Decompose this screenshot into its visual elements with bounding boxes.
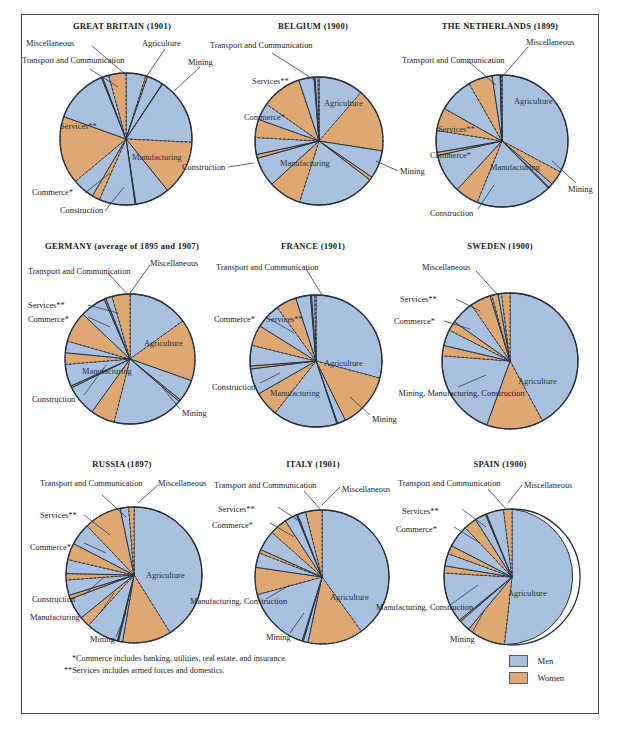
legend-label-men: Men — [537, 656, 553, 666]
label-miscellaneous: Miscellaneous — [422, 263, 470, 273]
footnote-services: **Services includes armed forces and dom… — [64, 665, 287, 677]
panel-title: SPAIN (1900) — [400, 459, 600, 469]
label-agriculture: Agriculture — [508, 589, 547, 599]
label-commerce: Commerce* — [394, 317, 435, 327]
label-transport-and-communication: Transport and Communication — [402, 56, 505, 66]
panel-germany: GERMANY (average of 1895 and 1907) — [22, 237, 222, 449]
label-agriculture: Agriculture — [514, 97, 553, 107]
panel-belgium: BELGIUM (1900) — [218, 15, 408, 227]
label-commerce: Commerce* — [396, 525, 437, 535]
label-manufacturing: Manufacturing — [280, 159, 330, 169]
label-agriculture: Agriculture — [324, 359, 363, 369]
label-manufacturing: Manufacturing — [490, 163, 540, 173]
label-agriculture: Agriculture — [324, 99, 363, 109]
label-services: Services** — [400, 295, 437, 305]
panel-title: ITALY (1901) — [218, 459, 408, 469]
legend-swatch-men — [509, 655, 528, 667]
label-transport-and-communication: Transport and Communication — [210, 41, 313, 51]
label-manufacturing: Manufacturing — [132, 153, 182, 163]
label-construction: Construction — [212, 383, 255, 393]
legend-label-women: Women — [537, 673, 564, 683]
legend-swatch-women — [509, 672, 528, 684]
panel-italy: ITALY (1901) — [218, 453, 408, 665]
label-services: Services** — [266, 315, 303, 325]
label-construction: Construction — [32, 595, 75, 605]
footnote-commerce: *Commerce includes banking, utilities, r… — [72, 653, 287, 665]
label-commerce: Commerce* — [430, 151, 471, 161]
label-miscellaneous: Miscellaneous — [26, 39, 74, 49]
label-manufacturing: Manufacturing — [82, 367, 132, 377]
panel-title: GERMANY (average of 1895 and 1907) — [22, 241, 222, 251]
panel-title: FRANCE (1901) — [218, 241, 408, 251]
panel-title: RUSSIA (1897) — [22, 459, 222, 469]
panel-title: BELGIUM (1900) — [218, 21, 408, 31]
label-mining: Mining — [90, 635, 115, 645]
label-mining: Mining — [182, 409, 207, 419]
panel-russia: RUSSIA (1897) — [22, 453, 222, 665]
panel-spain: SPAIN (1900) — [400, 453, 600, 665]
label-construction: Construction — [32, 395, 75, 405]
panel-france: FRANCE (1901) — [218, 237, 408, 449]
label-commerce: Commerce* — [212, 521, 253, 531]
label-transport-and-communication: Transport and Communication — [28, 267, 131, 277]
label-services: Services** — [252, 77, 289, 87]
label-services: Services** — [40, 511, 77, 521]
label-transport-and-communication: Transport and Communication — [40, 479, 143, 489]
label-mining: Mining — [266, 633, 291, 643]
label-agriculture: Agriculture — [518, 377, 557, 387]
label-services: Services** — [60, 122, 97, 132]
label-miscellaneous: Miscellaneous — [158, 479, 206, 489]
footnotes: *Commerce includes banking, utilities, r… — [72, 653, 287, 676]
label-transport-and-communication: Transport and Communication — [22, 56, 125, 66]
label-services: Services** — [438, 125, 475, 135]
label-agriculture: Agriculture — [142, 39, 181, 49]
label-construction: Construction — [430, 209, 473, 219]
figure-frame: GREAT BRITAIN (1901) — [21, 14, 599, 714]
label-construction: Construction — [182, 163, 225, 173]
label-miscellaneous: Miscellaneous — [524, 481, 572, 491]
label-services: Services** — [28, 301, 65, 311]
label-miscellaneous: Miscellaneous — [526, 38, 574, 48]
label-mining-manufacturing-construction: Mining, Manufacturing, Construction — [386, 379, 464, 408]
label-commerce: Commerce* — [214, 315, 255, 325]
legend-item-women: Women — [509, 672, 564, 684]
legend: Men Women — [509, 655, 564, 689]
panel-title: GREAT BRITAIN (1901) — [22, 21, 222, 31]
label-mining: Mining — [188, 58, 213, 68]
label-commerce: Commerce* — [30, 543, 71, 553]
label-transport-and-communication: Transport and Communication — [398, 479, 501, 489]
label-agriculture: Agriculture — [144, 339, 183, 349]
label-mining: Mining — [450, 635, 475, 645]
label-agriculture: Agriculture — [330, 593, 369, 603]
label-mining: Mining — [372, 415, 397, 425]
label-manufacturing: Manufacturing — [270, 389, 320, 399]
panel-great-britain: GREAT BRITAIN (1901) — [22, 15, 222, 227]
label-commerce: Commerce* — [244, 113, 285, 123]
label-mining: Mining — [568, 185, 593, 195]
label-manufacturing: Manufacturing — [30, 613, 80, 623]
panel-netherlands: THE NETHERLANDS (1899) — [400, 15, 600, 227]
label-commerce: Commerce* — [32, 188, 73, 198]
label-agriculture: Agriculture — [146, 571, 185, 581]
label-miscellaneous: Miscellaneous — [150, 259, 198, 269]
label-manufacturing-construction: Manufacturing, Construction — [190, 597, 270, 607]
label-services: Services** — [218, 505, 255, 515]
panel-sweden: SWEDEN (1900) — [400, 237, 600, 449]
legend-item-men: Men — [509, 655, 564, 667]
panel-title: THE NETHERLANDS (1899) — [400, 21, 600, 31]
label-manufacturing-construction: Manufacturing, Construction — [376, 603, 456, 613]
label-transport-and-communication: Transport and Communication — [214, 481, 317, 491]
panel-title: SWEDEN (1900) — [400, 241, 600, 251]
label-commerce: Commerce* — [28, 315, 69, 325]
label-construction: Construction — [60, 206, 103, 216]
label-transport-and-communication: Transport and Communication — [216, 263, 319, 273]
label-miscellaneous: Miscellaneous — [342, 485, 390, 495]
label-services: Services** — [402, 507, 439, 517]
